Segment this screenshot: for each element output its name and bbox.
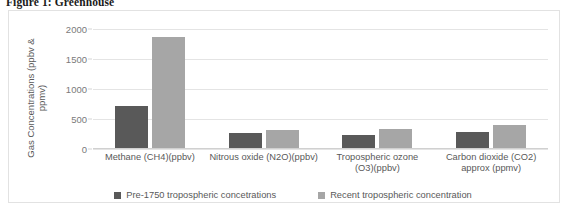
x-axis-label-line: Tropospheric ozone (321, 152, 435, 163)
bar-group (321, 29, 435, 149)
y-tick-mark (88, 59, 92, 60)
x-axis-label: Carbon dioxide (CO2)approx (ppmv) (434, 152, 548, 174)
legend-item[interactable]: Recent tropospheric concentration (318, 190, 472, 200)
legend-swatch-icon (114, 192, 121, 199)
x-axis-label-line: Carbon dioxide (CO2) (434, 152, 548, 163)
y-axis-title: Gas Concentrations (ppbv & ppmv) (23, 23, 49, 173)
bar-group (434, 29, 548, 149)
x-axis-label-line: approx (ppmv) (434, 163, 548, 174)
y-tick-mark (88, 89, 92, 90)
legend-label: Recent tropospheric concentration (330, 190, 472, 200)
x-axis-label-line: Methane (CH4)(ppbv) (93, 152, 207, 163)
bar (493, 125, 526, 149)
y-tick-label: 0 (82, 144, 87, 155)
bar (152, 37, 185, 149)
legend-label: Pre-1750 tropospheric concetrations (126, 190, 276, 200)
y-tick-mark (88, 119, 92, 120)
legend-item[interactable]: Pre-1750 tropospheric concetrations (114, 190, 276, 200)
y-tick-label: 1000 (66, 84, 87, 95)
y-tick-label: 500 (71, 114, 87, 125)
x-axis-label-line: (O3)(ppbv) (321, 163, 435, 174)
chart-container: Gas Concentrations (ppbv & ppmv) 0500100… (8, 10, 560, 203)
legend-swatch-icon (318, 192, 325, 199)
bar (115, 106, 148, 149)
bar (379, 129, 412, 149)
bar-group (93, 29, 207, 149)
figure-caption: Figure 1: Greenhouse (6, 0, 114, 8)
bar (266, 130, 299, 149)
x-axis-labels: Methane (CH4)(ppbv)Nitrous oxide (N2O)(p… (93, 152, 548, 180)
plot-area: 0500100015002000 (93, 29, 548, 149)
x-axis-label: Tropospheric ozone(O3)(ppbv) (321, 152, 435, 174)
y-axis-title-line2: ppmv) (36, 23, 47, 173)
y-axis-title-line1: Gas Concentrations (ppbv & (25, 38, 36, 157)
bar (229, 133, 262, 149)
chart-legend: Pre-1750 tropospheric concetrationsRecen… (9, 190, 568, 200)
y-tick-label: 1500 (66, 54, 87, 65)
x-axis-label: Nitrous oxide (N2O)(ppbv) (207, 152, 321, 163)
y-tick-mark (88, 29, 92, 30)
gridline (93, 149, 548, 150)
bar (342, 135, 375, 149)
y-tick-mark (88, 149, 92, 150)
x-axis-label-line: Nitrous oxide (N2O)(ppbv) (207, 152, 321, 163)
x-axis-label: Methane (CH4)(ppbv) (93, 152, 207, 163)
bar-group (207, 29, 321, 149)
bar (456, 132, 489, 149)
y-tick-label: 2000 (66, 24, 87, 35)
x-axis-line (93, 148, 548, 149)
